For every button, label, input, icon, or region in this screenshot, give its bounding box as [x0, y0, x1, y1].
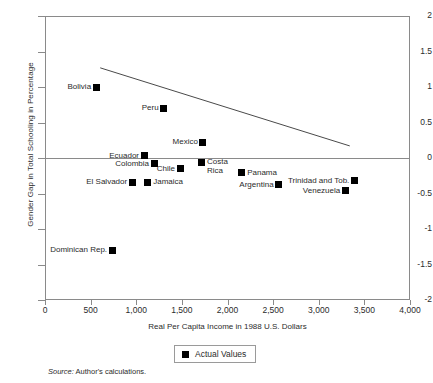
data-point-label: Argentina: [239, 180, 273, 189]
x-tick-label: 3,000: [296, 306, 342, 315]
x-tick-label: 2,000: [205, 306, 251, 315]
legend-label: Actual Values: [195, 349, 246, 359]
data-point-marker: [199, 139, 206, 146]
data-point-label: Bolivia: [68, 82, 92, 91]
y-tick: [38, 16, 45, 17]
data-point-marker: [109, 247, 116, 254]
data-point-marker: [93, 84, 100, 91]
y-axis-title: Gender Gap in Total Schooling in Percent…: [26, 25, 35, 265]
data-point-label: Colombia: [115, 159, 149, 168]
data-point-label: Mexico: [173, 137, 198, 146]
y-tick: [38, 194, 45, 195]
chart-legend: Actual Values: [174, 345, 256, 363]
x-tick-label: 0: [22, 306, 68, 315]
data-point-marker: [351, 177, 358, 184]
data-point-label: Panama: [247, 168, 277, 177]
data-point-marker: [275, 181, 282, 188]
source-note: Source: Author's calculations.: [48, 367, 146, 376]
x-tick-label: 1,000: [113, 306, 159, 315]
y-tick: [38, 52, 45, 53]
data-point-label: Chile: [157, 164, 175, 173]
data-point-label: Dominican Rep.: [50, 245, 107, 254]
data-point-marker: [160, 105, 167, 112]
data-point-label: Jamaica: [153, 177, 183, 186]
data-point-label: Peru: [142, 103, 159, 112]
data-point-label: El Salvador: [86, 177, 127, 186]
data-point-label: Costa Rica: [207, 157, 228, 175]
source-prefix: Source:: [48, 367, 74, 376]
data-point-marker: [144, 179, 151, 186]
x-tick-label: 3,500: [341, 306, 387, 315]
data-point-label: Trinidad and Tob.: [288, 176, 349, 185]
data-point-marker: [238, 169, 245, 176]
data-point-marker: [198, 159, 205, 166]
x-tick-label: 500: [68, 306, 114, 315]
data-point-label: Venezuela: [303, 186, 340, 195]
y-tick: [38, 229, 45, 230]
y-tick: [38, 265, 45, 266]
legend-marker-icon: [182, 351, 189, 358]
x-tick-label: 4,000: [387, 306, 433, 315]
data-point-marker: [342, 187, 349, 194]
y-tick: [38, 123, 45, 124]
data-point-marker: [177, 165, 184, 172]
y-tick: [38, 300, 45, 301]
x-tick-label: 1,500: [159, 306, 205, 315]
y-tick: [38, 87, 45, 88]
source-text: Author's calculations.: [76, 367, 147, 376]
data-point-marker: [129, 179, 136, 186]
x-axis-title: Real Per Capita Income in 1988 U.S. Doll…: [45, 322, 410, 331]
y-tick: [38, 158, 45, 159]
x-tick-label: 2,500: [250, 306, 296, 315]
